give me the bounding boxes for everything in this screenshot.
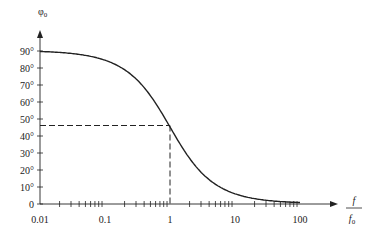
svg-text:1: 1: [168, 214, 173, 225]
x-axis-label: f f0: [346, 195, 362, 226]
svg-text:70°: 70°: [20, 80, 34, 91]
svg-text:0.01: 0.01: [31, 214, 49, 225]
svg-text:10°: 10°: [20, 182, 34, 193]
svg-text:f0: f0: [349, 213, 356, 226]
reference-lines: [40, 126, 170, 205]
svg-text:0: 0: [29, 199, 34, 210]
svg-text:40°: 40°: [20, 131, 34, 142]
axes: [37, 30, 338, 207]
svg-text:f: f: [353, 195, 357, 206]
svg-text:80°: 80°: [20, 63, 34, 74]
y-axis-label: φ0: [38, 6, 48, 19]
svg-text:20°: 20°: [20, 165, 34, 176]
ticks: [37, 51, 297, 207]
svg-text:60°: 60°: [20, 97, 34, 108]
svg-text:30°: 30°: [20, 148, 34, 159]
svg-text:100: 100: [293, 214, 308, 225]
svg-text:90°: 90°: [20, 46, 34, 57]
svg-text:50°: 50°: [20, 114, 34, 125]
svg-text:0.1: 0.1: [99, 214, 112, 225]
tick-labels: 010°20°30°40°50°60°70°80°90°0.010.111010…: [20, 46, 308, 226]
phase-chart: 010°20°30°40°50°60°70°80°90°0.010.111010…: [0, 0, 377, 232]
svg-text:10: 10: [230, 214, 240, 225]
